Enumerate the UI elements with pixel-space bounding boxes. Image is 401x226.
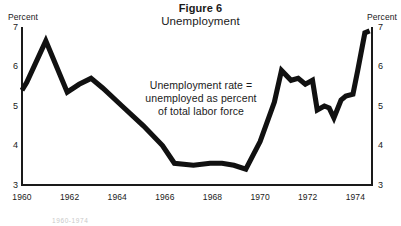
figure-unemployment-chart: Figure 6 Unemployment Percent Percent 7 … — [0, 0, 401, 226]
annotation-line-2: unemployed as percent — [118, 92, 284, 105]
footnote-text: 1960-1974 — [52, 217, 89, 224]
chart-annotation: Unemployment rate = unemployed as percen… — [118, 79, 284, 117]
annotation-line-3: of total labor force — [118, 105, 284, 118]
annotation-line-1: Unemployment rate = — [118, 79, 284, 92]
